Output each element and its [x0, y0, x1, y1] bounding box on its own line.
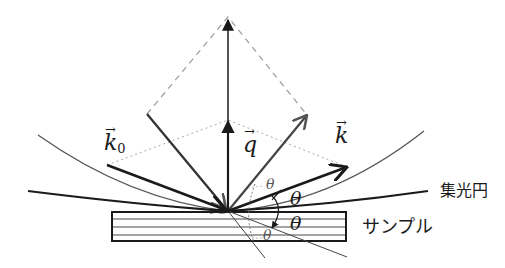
sample-block — [112, 212, 346, 241]
focusing-circle-label: 集光円 — [440, 183, 488, 199]
theta-label-1: θ — [266, 177, 274, 191]
theta-label-2: θ — [290, 189, 301, 208]
q-label: →q — [243, 134, 257, 156]
sample-label: サンプル — [362, 218, 433, 236]
scatter-point — [214, 209, 230, 214]
theta-label-4: θ — [263, 228, 271, 242]
k-label: →k — [335, 125, 348, 147]
k0-label: →k0 — [104, 132, 126, 155]
theta-label-3: θ — [290, 214, 301, 233]
scattering-diagram: →k0 →q →k θ θ θ θ 集光円 サンプル — [0, 0, 505, 268]
